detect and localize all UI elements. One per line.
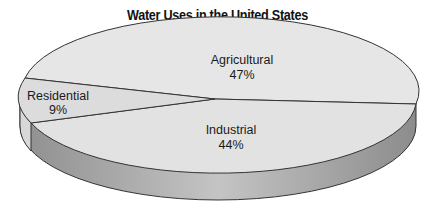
label-residential-name: Residential [27,89,89,103]
pie-chart: Agricultural 47% Industrial 44% Resident… [0,0,435,216]
label-agricultural-name: Agricultural [211,53,274,67]
label-industrial-value: 44% [218,138,243,152]
label-agricultural-value: 47% [229,68,254,82]
label-industrial-name: Industrial [206,123,257,137]
label-residential-value: 9% [49,103,67,117]
